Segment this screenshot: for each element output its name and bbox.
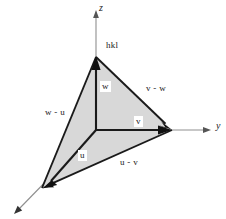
label-u: u (78, 150, 87, 161)
axis-label-z: z (97, 2, 105, 14)
label-hkl: hkl (104, 40, 120, 51)
vector-diagram (0, 0, 226, 219)
label-v-minus-w: v - w (144, 83, 168, 94)
axis-label-y: y (214, 120, 223, 132)
label-w: w (100, 81, 111, 92)
y-axis-arrowhead (203, 127, 211, 133)
figure-canvas: z y hkl w v - w w - u v u u - v (0, 0, 226, 219)
label-w-minus-u: w - u (43, 107, 67, 118)
label-u-minus-v: u - v (118, 157, 140, 168)
label-v: v (134, 116, 143, 127)
